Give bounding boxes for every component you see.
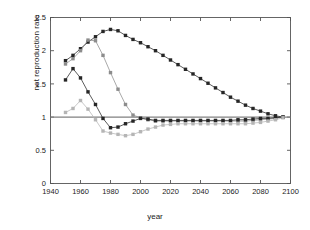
data-point-marker bbox=[259, 109, 262, 112]
data-point-marker bbox=[124, 134, 127, 137]
data-point-marker bbox=[236, 99, 239, 102]
data-point-marker bbox=[191, 72, 194, 75]
data-point-marker bbox=[131, 133, 134, 136]
data-point-marker bbox=[131, 38, 134, 41]
data-point-marker bbox=[229, 119, 232, 122]
data-point-marker bbox=[214, 122, 217, 125]
data-point-marker bbox=[101, 30, 104, 33]
data-point-marker bbox=[139, 41, 142, 44]
data-point-marker bbox=[214, 86, 217, 89]
data-point-marker bbox=[184, 68, 187, 71]
data-point-marker bbox=[221, 119, 224, 122]
data-point-marker bbox=[131, 113, 134, 116]
data-point-marker bbox=[139, 130, 142, 133]
data-point-marker bbox=[146, 127, 149, 130]
data-point-marker bbox=[116, 125, 119, 128]
data-point-marker bbox=[221, 122, 224, 125]
data-point-marker bbox=[199, 77, 202, 80]
y-axis-label: net reproduction rate bbox=[32, 0, 41, 113]
data-point-marker bbox=[101, 54, 104, 57]
data-point-marker bbox=[64, 62, 67, 65]
data-point-marker bbox=[94, 35, 97, 38]
figure-container: 19401960198020002020204020602080210000.5… bbox=[0, 0, 310, 230]
x-tick-label: 2100 bbox=[282, 187, 299, 196]
data-point-marker bbox=[214, 119, 217, 122]
data-point-marker bbox=[161, 123, 164, 126]
data-point-marker bbox=[176, 122, 179, 125]
data-point-marker bbox=[244, 118, 247, 121]
data-point-marker bbox=[206, 82, 209, 85]
data-point-marker bbox=[184, 119, 187, 122]
data-point-marker bbox=[101, 117, 104, 120]
data-point-marker bbox=[154, 119, 157, 122]
y-tick-label: 0 bbox=[42, 179, 46, 188]
net-reproduction-rate-chart: 19401960198020002020204020602080210000.5… bbox=[0, 0, 310, 230]
data-point-marker bbox=[109, 71, 112, 74]
data-point-marker bbox=[236, 118, 239, 121]
data-point-marker bbox=[116, 88, 119, 91]
data-point-marker bbox=[124, 122, 127, 125]
data-point-marker bbox=[94, 118, 97, 121]
data-point-marker bbox=[169, 119, 172, 122]
data-point-marker bbox=[266, 112, 269, 115]
data-point-marker bbox=[109, 28, 112, 31]
data-point-marker bbox=[154, 125, 157, 128]
y-tick-label: 1 bbox=[42, 113, 46, 122]
data-point-marker bbox=[71, 67, 74, 70]
data-point-marker bbox=[116, 133, 119, 136]
data-point-marker bbox=[64, 111, 67, 114]
data-point-marker bbox=[94, 39, 97, 42]
data-point-marker bbox=[124, 34, 127, 37]
data-point-marker bbox=[131, 119, 134, 122]
x-tick-label: 2000 bbox=[132, 187, 149, 196]
data-point-marker bbox=[251, 117, 254, 120]
data-point-marker bbox=[71, 57, 74, 60]
x-axis-label: year bbox=[0, 212, 310, 221]
data-point-marker bbox=[266, 119, 269, 122]
data-point-marker bbox=[94, 103, 97, 106]
data-point-marker bbox=[116, 29, 119, 32]
data-point-marker bbox=[229, 95, 232, 98]
data-point-marker bbox=[161, 119, 164, 122]
data-point-marker bbox=[154, 49, 157, 52]
data-point-marker bbox=[244, 122, 247, 125]
data-point-marker bbox=[71, 107, 74, 110]
data-point-marker bbox=[199, 119, 202, 122]
x-tick-label: 2040 bbox=[192, 187, 209, 196]
data-point-marker bbox=[161, 54, 164, 57]
data-point-marker bbox=[86, 38, 89, 41]
data-point-marker bbox=[79, 76, 82, 79]
data-point-marker bbox=[206, 119, 209, 122]
x-tick-label: 1980 bbox=[102, 187, 119, 196]
data-point-marker bbox=[146, 117, 149, 120]
data-point-marker bbox=[79, 99, 82, 102]
data-point-marker bbox=[169, 123, 172, 126]
data-point-marker bbox=[109, 126, 112, 129]
y-tick-label: 2 bbox=[42, 46, 46, 55]
data-point-marker bbox=[236, 122, 239, 125]
data-point-marker bbox=[146, 45, 149, 48]
data-point-marker bbox=[251, 121, 254, 124]
data-point-marker bbox=[71, 54, 74, 57]
data-point-marker bbox=[64, 78, 67, 81]
data-point-marker bbox=[176, 119, 179, 122]
data-point-marker bbox=[274, 118, 277, 121]
x-tick-label: 2080 bbox=[252, 187, 269, 196]
data-point-marker bbox=[191, 122, 194, 125]
data-point-marker bbox=[139, 117, 142, 120]
data-point-marker bbox=[191, 119, 194, 122]
data-point-marker bbox=[206, 122, 209, 125]
data-point-marker bbox=[244, 103, 247, 106]
data-point-marker bbox=[251, 107, 254, 110]
data-point-marker bbox=[259, 121, 262, 124]
data-point-marker bbox=[199, 122, 202, 125]
data-point-marker bbox=[86, 90, 89, 93]
data-point-marker bbox=[281, 116, 284, 119]
data-point-marker bbox=[86, 107, 89, 110]
data-point-marker bbox=[176, 63, 179, 66]
data-point-marker bbox=[64, 59, 67, 62]
data-point-marker bbox=[79, 49, 82, 52]
x-tick-label: 1960 bbox=[72, 187, 89, 196]
data-point-marker bbox=[259, 117, 262, 120]
data-point-marker bbox=[169, 58, 172, 61]
